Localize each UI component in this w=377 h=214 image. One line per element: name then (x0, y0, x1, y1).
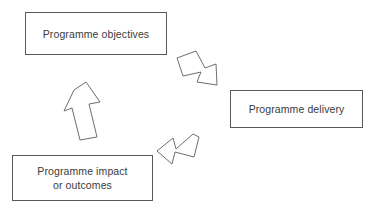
diagram-canvas: Programme objectives Programme delivery … (0, 0, 377, 214)
arrow-delivery-to-impact-icon (157, 134, 199, 164)
node-programme-objectives[interactable]: Programme objectives (25, 12, 167, 55)
node-programme-impact[interactable]: Programme impact or outcomes (12, 155, 153, 201)
node-programme-objectives-label: Programme objectives (43, 27, 149, 41)
node-programme-delivery[interactable]: Programme delivery (230, 90, 363, 128)
arrow-impact-to-objectives-icon (64, 82, 100, 140)
node-programme-delivery-label: Programme delivery (249, 102, 345, 116)
arrow-objectives-to-delivery-icon (177, 51, 217, 85)
node-programme-impact-label: Programme impact or outcomes (37, 164, 127, 192)
